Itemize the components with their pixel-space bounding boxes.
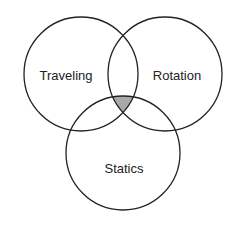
traveling-label: Traveling	[40, 69, 93, 82]
rotation-label: Rotation	[153, 69, 201, 82]
statics-label: Statics	[104, 162, 143, 175]
venn-graphic	[0, 0, 236, 229]
venn-diagram: Traveling Rotation Statics	[0, 0, 236, 229]
